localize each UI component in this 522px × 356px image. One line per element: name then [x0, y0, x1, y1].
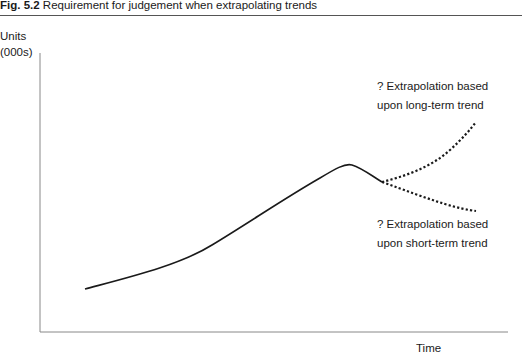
- chart-canvas: [0, 0, 522, 356]
- annotation-long-term-line1: ? Extrapolation based: [377, 77, 488, 96]
- annotation-short-term: ? Extrapolation based upon short-term tr…: [377, 215, 488, 253]
- annotation-long-term-line2: upon long-term trend: [377, 96, 488, 115]
- actual-trend-line: [85, 165, 382, 289]
- x-axis-label: Time: [416, 342, 441, 354]
- long-term-extrapolation-line: [382, 122, 476, 182]
- short-term-extrapolation-line: [382, 182, 476, 211]
- annotation-short-term-line1: ? Extrapolation based: [377, 215, 488, 234]
- annotation-short-term-line2: upon short-term trend: [377, 234, 488, 253]
- annotation-long-term: ? Extrapolation based upon long-term tre…: [377, 77, 488, 115]
